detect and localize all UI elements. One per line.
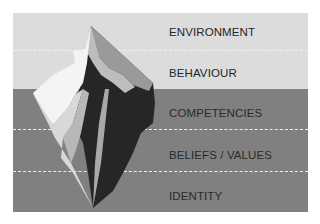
level-label-behaviour: BEHAVIOUR (169, 67, 237, 79)
level-label-identity: IDENTITY (169, 190, 222, 202)
level-label-beliefs-values: BELIEFS / VALUES (169, 149, 272, 161)
iceberg-diagram: ENVIRONMENT BEHAVIOUR COMPETENCIES BELIE… (13, 13, 308, 212)
iceberg-icon (13, 13, 308, 212)
level-label-competencies: COMPETENCIES (169, 107, 262, 119)
level-label-environment: ENVIRONMENT (169, 26, 255, 38)
